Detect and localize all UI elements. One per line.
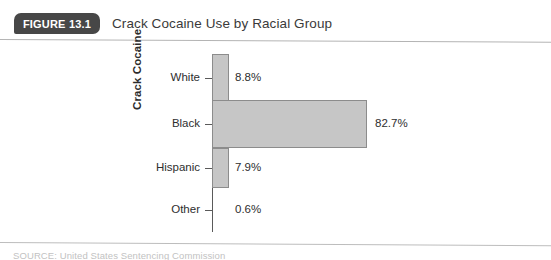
value-label-other: 0.6% <box>235 203 261 215</box>
source-note: SOURCE: United States Sentencing Commiss… <box>13 250 225 260</box>
y-axis-title: Crack Cocaine <box>131 29 143 110</box>
bar-black <box>212 100 367 148</box>
bar-white <box>212 54 229 102</box>
figure-page: FIGURE 13.1 Crack Cocaine Use by Racial … <box>0 0 551 260</box>
axis-tick-other <box>205 210 213 211</box>
bar-chart: Crack Cocaine White 8.8% Black 82.7% His… <box>0 40 551 236</box>
category-label-hispanic: Hispanic <box>80 161 200 173</box>
category-label-black: Black <box>80 117 200 129</box>
bar-hispanic <box>212 148 229 188</box>
value-label-hispanic: 7.9% <box>235 161 261 173</box>
figure-number-label: FIGURE 13.1 <box>23 18 91 30</box>
figure-header: FIGURE 13.1 Crack Cocaine Use by Racial … <box>0 0 551 40</box>
category-label-other: Other <box>80 203 200 215</box>
figure-title: Crack Cocaine Use by Racial Group <box>112 16 332 31</box>
value-label-white: 8.8% <box>235 71 261 83</box>
footer-divider <box>0 242 551 246</box>
figure-number-badge: FIGURE 13.1 <box>14 13 100 34</box>
value-label-black: 82.7% <box>375 117 408 129</box>
category-label-white: White <box>80 71 200 83</box>
